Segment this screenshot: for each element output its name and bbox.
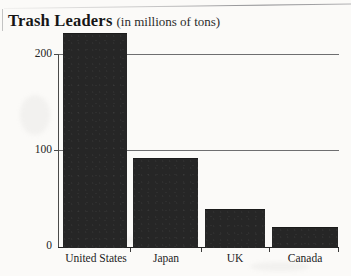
y-axis-line bbox=[58, 54, 59, 248]
bar-uk bbox=[205, 209, 265, 248]
bar-canada bbox=[272, 227, 338, 248]
y-tick-label-200: 200 bbox=[16, 47, 52, 59]
y-tick-mark-100 bbox=[54, 150, 58, 151]
y-tick-label-0: 0 bbox=[32, 239, 52, 251]
bar-united-states bbox=[63, 33, 127, 248]
y-tick-label-100: 100 bbox=[16, 143, 52, 155]
y-tick-mark-200 bbox=[54, 54, 58, 55]
chart-figure: Trash Leaders(in millions of tons) 200 1… bbox=[0, 0, 351, 276]
x-category-label-canada: Canada bbox=[245, 252, 351, 264]
plot-area: 200 100 0 United States Japan UK Canada bbox=[0, 0, 351, 276]
bar-japan bbox=[133, 158, 198, 248]
